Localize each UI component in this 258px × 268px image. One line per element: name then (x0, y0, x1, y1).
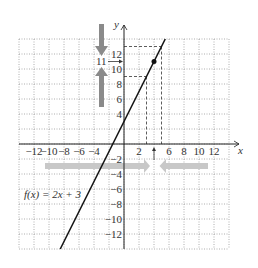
left-arrow-head-icon (160, 159, 167, 173)
function-label: f(x) = 2x + 3 (24, 188, 81, 201)
x-tick-label: −4 (88, 145, 100, 157)
y-tick-label: −12 (105, 228, 122, 240)
x-tick-label: 10 (194, 145, 206, 157)
y-tick-label: 12 (111, 48, 122, 60)
y-tick-label: −4 (110, 168, 122, 180)
y-tick-label: 8 (117, 78, 123, 90)
y-tick-label: −2 (110, 153, 122, 165)
annotation-eleven: 11 (96, 55, 107, 67)
y-tick-label: −10 (105, 213, 123, 225)
x-tick-label: 6 (166, 145, 172, 157)
down-arrow-shaft (99, 24, 104, 48)
x-axis-label: x (237, 144, 243, 156)
up-arrow-shaft (99, 76, 104, 107)
y-tick-label: −6 (110, 183, 122, 195)
x-tick-label: −10 (40, 145, 58, 157)
y-axis-label: y (113, 18, 119, 30)
x-tick-label: 2 (136, 145, 142, 157)
x-tick-label: −8 (58, 145, 70, 157)
right-arrow-shaft (45, 163, 144, 169)
function-graph: −12−10−8−6−426810121210864−2−4−6−8−10−12… (0, 0, 258, 268)
x-tick-label: 12 (209, 145, 220, 157)
y-tick-label: 6 (117, 93, 123, 105)
up-arrow-head-icon (95, 67, 108, 76)
highlight-point (152, 59, 157, 64)
y-tick-label: 4 (117, 108, 123, 120)
axes (19, 25, 239, 249)
x-tick-label: −6 (73, 145, 85, 157)
y-tick-label: −8 (110, 198, 122, 210)
right-arrow-head-icon (144, 159, 150, 173)
x-four-arrow-head-icon (152, 147, 156, 151)
x-tick-label: 8 (181, 145, 187, 157)
y-tick-label: 10 (111, 63, 123, 75)
left-arrow-shaft (166, 163, 208, 169)
